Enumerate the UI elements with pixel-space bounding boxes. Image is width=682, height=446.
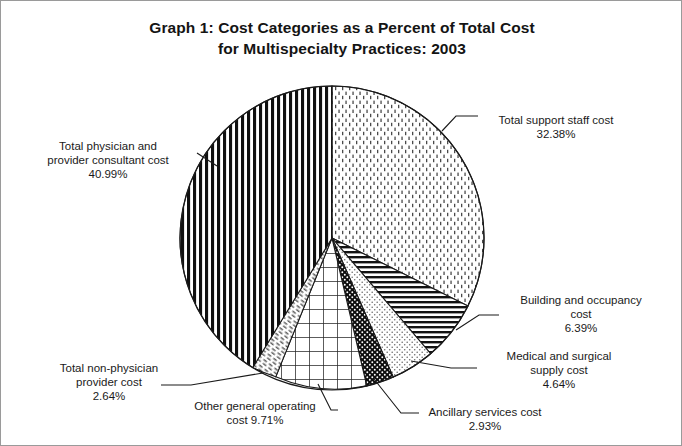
slice-label-total-support-staff-cost: Total support staff cost 32.38% (481, 113, 631, 141)
slice-label-other-general-operating-cost: Other general operating cost 9.71% (175, 399, 335, 427)
slice-label-medical-and-surgical-supply-cost: Medical and surgical supply cost 4.64% (479, 349, 639, 392)
slice-label-building-and-occupancy-cost: Building and occupancy cost 6.39% (501, 293, 661, 336)
figure-frame: Graph 1: Cost Categories as a Percent of… (0, 0, 682, 446)
leader-line-medical (411, 361, 477, 368)
leader-line-support (442, 116, 478, 131)
slice-label-ancillary-services-cost: Ancillary services cost 2.93% (405, 405, 565, 433)
slice-label-total-non-physician-provider-cost: Total non-physician provider cost 2.64% (29, 361, 189, 404)
leader-line-building (456, 315, 499, 330)
slice-label-total-physician-and-provider-consultant-cost: Total physician and provider consultant … (23, 139, 193, 182)
